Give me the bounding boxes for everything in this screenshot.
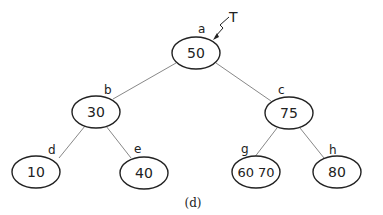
node-keys-d: 10 (27, 164, 45, 180)
pointer-label: T (228, 9, 238, 25)
tree-node-d: d 10 (12, 143, 60, 188)
edge-c-h (300, 128, 324, 158)
edge-b-d (59, 126, 85, 158)
tree-node-a: a 50 (172, 22, 220, 69)
node-label-g: g (241, 142, 249, 156)
figure-caption: (d) (184, 196, 201, 210)
node-keys-a: 50 (187, 45, 205, 61)
tree-diagram: T a 50 b 30 c 75 d 10 e 40 g 60 70 h (0, 0, 383, 215)
edge-a-b (113, 63, 176, 99)
node-label-e: e (134, 142, 141, 156)
tree-node-h: h 80 (313, 143, 361, 188)
tree-node-g: g 60 70 (232, 142, 280, 188)
tree-node-b: b 30 (72, 83, 120, 128)
node-keys-e: 40 (135, 165, 153, 181)
node-keys-g: 60 70 (237, 165, 274, 180)
edge-a-c (216, 63, 271, 101)
node-label-b: b (104, 83, 112, 97)
node-label-c: c (278, 83, 285, 97)
node-label-a: a (198, 22, 205, 36)
node-keys-b: 30 (87, 104, 105, 120)
edge-b-e (106, 126, 131, 158)
node-label-d: d (48, 143, 56, 157)
node-label-h: h (329, 143, 337, 157)
node-keys-h: 80 (328, 164, 346, 180)
node-keys-c: 75 (280, 105, 298, 121)
tree-node-c: c 75 (265, 83, 313, 129)
root-pointer: T (213, 9, 238, 40)
tree-node-e: e 40 (120, 142, 168, 189)
edge-c-g (254, 128, 277, 158)
